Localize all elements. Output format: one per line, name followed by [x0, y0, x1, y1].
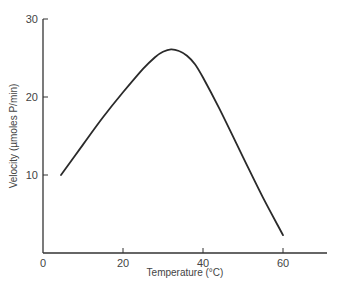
- y-tick-label: 20: [26, 91, 38, 103]
- x-axis-title: Temperature (°C): [147, 267, 224, 278]
- y-axis: 102030: [26, 13, 48, 253]
- x-tick-label: 20: [117, 257, 129, 269]
- x-tick-label: 60: [277, 257, 289, 269]
- velocity-curve: [61, 49, 283, 235]
- temperature-velocity-chart: 102030 0204060 Temperature (°C) Velocity…: [0, 0, 338, 287]
- y-axis-title: Velocity (µmoles P/min): [8, 84, 19, 189]
- x-axis: 0204060: [40, 248, 327, 269]
- x-tick-label: 0: [40, 257, 46, 269]
- y-tick-label: 30: [26, 13, 38, 25]
- y-tick-label: 10: [26, 169, 38, 181]
